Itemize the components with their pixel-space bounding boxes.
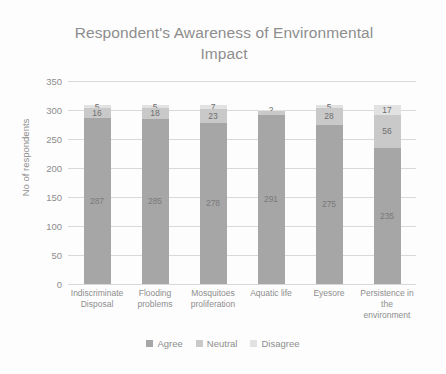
bar-segment-agree[interactable]: 235 bbox=[374, 148, 401, 284]
bar-data-label: 18 bbox=[150, 109, 159, 118]
bar-data-label: 28 bbox=[324, 112, 333, 121]
x-axis-label: Eyesore bbox=[300, 288, 358, 299]
bar-segment-agree[interactable]: 287 bbox=[84, 118, 111, 284]
bar-data-label: 278 bbox=[206, 199, 220, 208]
x-axis-label: Indiscriminate Disposal bbox=[68, 288, 126, 310]
legend-label: Neutral bbox=[207, 338, 238, 349]
gridline: 0 bbox=[68, 284, 416, 285]
legend-label: Disagree bbox=[261, 338, 299, 349]
bar-slot: 723278 bbox=[184, 81, 242, 284]
bar-slot: 1756235 bbox=[358, 81, 416, 284]
y-axis-title: No of respondents bbox=[20, 83, 31, 233]
legend-item[interactable]: Neutral bbox=[196, 338, 238, 349]
bar-data-label: 291 bbox=[264, 195, 278, 204]
bar-data-label: 275 bbox=[322, 200, 336, 209]
bar-data-label: 285 bbox=[148, 197, 162, 206]
y-axis-tick-label: 50 bbox=[51, 250, 62, 261]
bar-segment-neutral[interactable]: 28 bbox=[316, 108, 343, 124]
bar-segment-disagree[interactable]: 17 bbox=[374, 105, 401, 115]
legend-swatch-icon bbox=[146, 340, 153, 347]
chart-legend: AgreeNeutralDisagree bbox=[0, 338, 446, 349]
bar-slot: 528275 bbox=[300, 81, 358, 284]
x-axis-category-labels: Indiscriminate DisposalFlooding problems… bbox=[68, 288, 416, 321]
legend-swatch-icon bbox=[196, 340, 203, 347]
bar-segment-agree[interactable]: 275 bbox=[316, 125, 343, 285]
bar-data-label: 287 bbox=[90, 197, 104, 206]
bar-slot: 2291 bbox=[242, 81, 300, 284]
bar-segment-neutral[interactable]: 23 bbox=[200, 109, 227, 122]
stacked-bar[interactable]: 1756235 bbox=[374, 105, 401, 284]
bar-data-label: 17 bbox=[382, 106, 391, 115]
x-axis-label: Mosquitoes proliferation bbox=[184, 288, 242, 310]
plot-area: 350300250200150100500 516287518285723278… bbox=[68, 81, 416, 284]
chart-canvas: Respondent's Awareness of Environmental … bbox=[0, 0, 446, 374]
stacked-bar[interactable]: 516287 bbox=[84, 105, 111, 284]
bar-segment-agree[interactable]: 291 bbox=[258, 115, 285, 284]
legend-item[interactable]: Disagree bbox=[250, 338, 299, 349]
stacked-bar[interactable]: 528275 bbox=[316, 105, 343, 284]
bar-segment-agree[interactable]: 285 bbox=[142, 119, 169, 284]
stacked-bar[interactable]: 518285 bbox=[142, 105, 169, 284]
bar-data-label: 235 bbox=[380, 212, 394, 221]
x-axis-label: Persistence in the environment bbox=[358, 288, 416, 321]
x-axis-label: Flooding problems bbox=[126, 288, 184, 310]
y-axis-tick-label: 150 bbox=[46, 192, 62, 203]
y-axis-tick-label: 200 bbox=[46, 163, 62, 174]
bar-segment-neutral[interactable]: 16 bbox=[84, 108, 111, 117]
legend-swatch-icon bbox=[250, 340, 257, 347]
bar-segment-neutral[interactable]: 56 bbox=[374, 115, 401, 147]
bar-slot: 516287 bbox=[68, 81, 126, 284]
bars-layer: 51628751828572327822915282751756235 bbox=[68, 81, 416, 284]
stacked-bar[interactable]: 723278 bbox=[200, 105, 227, 284]
bar-segment-neutral[interactable]: 18 bbox=[142, 108, 169, 118]
y-axis-tick-label: 100 bbox=[46, 221, 62, 232]
stacked-bar[interactable]: 2291 bbox=[258, 110, 285, 284]
y-axis-tick-label: 250 bbox=[46, 134, 62, 145]
y-axis-tick-label: 350 bbox=[46, 76, 62, 87]
y-axis-tick-label: 0 bbox=[57, 279, 62, 290]
bar-segment-agree[interactable]: 278 bbox=[200, 123, 227, 284]
bar-slot: 518285 bbox=[126, 81, 184, 284]
bar-data-label: 56 bbox=[382, 127, 391, 136]
bar-data-label: 16 bbox=[92, 109, 101, 118]
legend-item[interactable]: Agree bbox=[146, 338, 182, 349]
bar-data-label: 23 bbox=[208, 112, 217, 121]
legend-label: Agree bbox=[157, 338, 182, 349]
chart-title: Respondent's Awareness of Environmental … bbox=[52, 22, 396, 64]
y-axis-tick-label: 300 bbox=[46, 105, 62, 116]
x-axis-label: Aquatic life bbox=[242, 288, 300, 299]
